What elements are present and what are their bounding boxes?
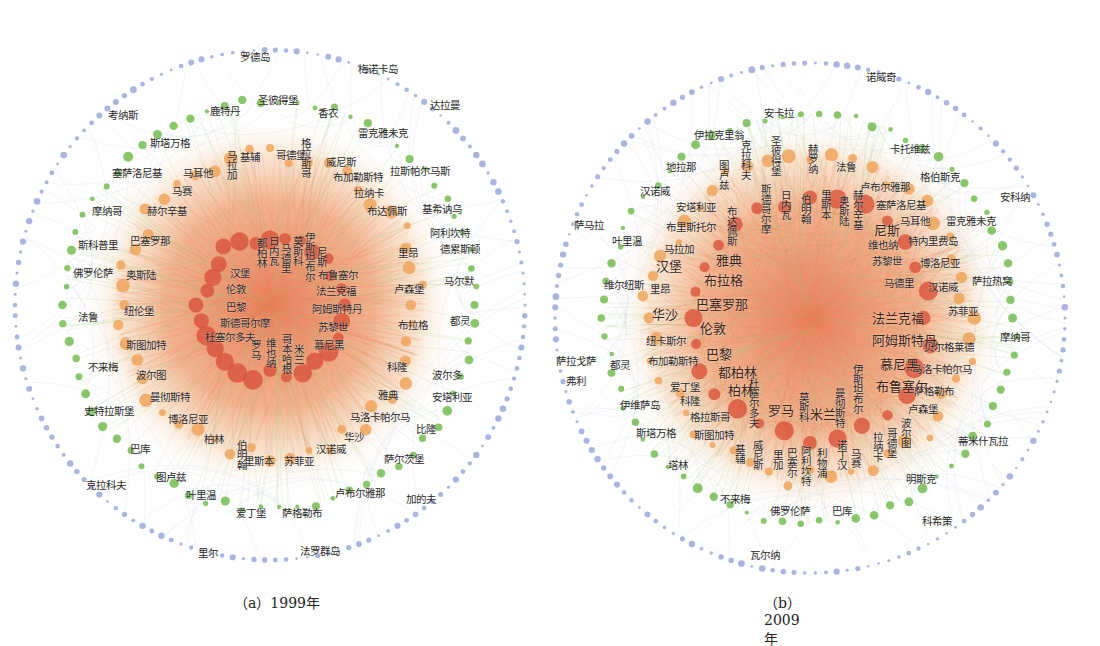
node-label: 马赛 — [850, 448, 861, 468]
node-label: 伯明翰 — [800, 194, 811, 224]
node-label: 卡托维兹 — [890, 144, 930, 155]
node-label: 汉诺威 — [640, 186, 670, 197]
node-label: 利物浦 — [816, 448, 827, 478]
node-label: 法鲁 — [836, 162, 856, 173]
node-label: 威尼斯 — [752, 440, 763, 470]
node-label: 纽卡斯尔 — [646, 336, 686, 347]
node-label: 斯图加特 — [694, 430, 734, 441]
node-label: 弗利 — [566, 376, 586, 387]
node-label: 塞萨洛尼基 — [876, 200, 926, 211]
node-label: 卢森堡 — [908, 404, 938, 415]
node-label: 布达佩斯 — [726, 206, 737, 246]
node-label: 都柏林 — [718, 366, 757, 379]
node-label: 里斯本 — [820, 190, 831, 220]
node-label: 安塔利亚 — [676, 202, 716, 213]
node-label: 科希策 — [922, 516, 952, 527]
node-label: 瓦尔纳 — [750, 550, 780, 561]
node-label: 巴黎 — [706, 348, 732, 361]
node-label: 基辅 — [734, 444, 745, 464]
node-label: 哥德堡 — [886, 428, 897, 458]
node-label: 布鲁塞尔 — [876, 380, 928, 393]
node-label: 赫罗纳 — [807, 144, 818, 174]
node-label: 波尔图 — [900, 418, 911, 448]
node-label: 法兰克福 — [872, 312, 924, 325]
node-label: 苏菲亚 — [948, 306, 978, 317]
node-label: 雷克雅未克 — [946, 216, 996, 227]
node-label: 米兰 — [810, 408, 836, 421]
node-label: 伦敦 — [700, 322, 726, 335]
node-label: 地拉那 — [666, 162, 696, 173]
node-label: 科隆 — [680, 396, 700, 407]
node-label: 慕尼黑 — [880, 358, 919, 371]
node-label: 克拉科夫 — [740, 140, 751, 180]
node-label: 安科纳 — [1000, 192, 1030, 203]
node-label: 柏林 — [728, 384, 754, 397]
node-label: 莫斯科 — [798, 392, 809, 422]
node-label: 蒂米什瓦拉 — [958, 436, 1008, 447]
node-label: 雅典 — [716, 254, 742, 267]
node-label: 赫尔辛基 — [852, 190, 863, 230]
node-label: 卢布尔雅那 — [860, 182, 910, 193]
node-label: 日内瓦 — [780, 190, 791, 220]
node-label: 摩纳哥 — [1000, 332, 1030, 343]
node-label: 都灵 — [610, 360, 630, 371]
node-label: 博洛尼亚 — [920, 258, 960, 269]
node-label: 诺威奇 — [866, 72, 896, 83]
node-label: 马洛卡帕尔马 — [912, 364, 972, 375]
node-label: 马拉加 — [664, 244, 694, 255]
node-label: 格伯斯克 — [920, 172, 960, 183]
node-label: 奥斯陆 — [838, 196, 849, 226]
node-label: 萨拉戈萨 — [556, 356, 596, 367]
node-label: 图卢兹 — [718, 160, 729, 190]
node-label: 苏黎世 — [872, 256, 902, 267]
node-label: 阿利坎特 — [800, 446, 811, 486]
network-graph-2009 — [0, 0, 1100, 646]
node-label: 佛罗伦萨 — [770, 506, 810, 517]
caption-2009: （b）2009年 — [764, 592, 801, 646]
node-label: 马耳他 — [900, 216, 930, 227]
node-label: 伊拉克里翁 — [694, 130, 744, 141]
node-label: 萨拉热窝 — [972, 276, 1012, 287]
node-label: 伊维萨岛 — [620, 400, 660, 411]
node-label: 汉诺威 — [928, 282, 958, 293]
node-label: 巴塞罗那 — [696, 298, 748, 311]
node-label: 拉纳卡 — [872, 432, 883, 462]
node-label: 罗马 — [768, 404, 794, 417]
node-label: 里加 — [772, 450, 783, 470]
node-label: 伊斯坦布尔 — [852, 364, 863, 414]
node-label: 斯德哥尔摩 — [760, 184, 771, 234]
node-label: 布拉格 — [704, 274, 743, 287]
node-label: 华沙 — [652, 308, 678, 321]
node-label: 里昂 — [650, 284, 670, 295]
node-label: 马德里 — [884, 278, 914, 289]
node-label: 维尔纽斯 — [604, 280, 644, 291]
node-label: 巴库 — [832, 506, 852, 517]
node-label: 圣彼得堡 — [770, 136, 781, 176]
node-label: 爱丁堡 — [670, 382, 700, 393]
node-label: 特内里费岛 — [908, 236, 958, 247]
node-label: 格拉斯哥 — [690, 412, 730, 423]
node-label: 斯塔万格 — [636, 428, 676, 439]
network-panel-2009: 诺威奇安卡拉伊拉克里翁卡托维兹地拉那法鲁卢布尔雅那格伯斯克汉诺威安科纳塞萨洛尼基… — [0, 0, 550, 646]
node-label: 明斯克 — [906, 474, 936, 485]
node-label: 安卡拉 — [764, 108, 794, 119]
node-label: 布里斯托尔 — [666, 222, 716, 233]
node-label: 萨马拉 — [574, 220, 604, 231]
node-label: 汉堡 — [656, 260, 682, 273]
node-label: 巴塞尔 — [786, 448, 797, 478]
node-label: 阿姆斯特丹 — [872, 334, 937, 347]
node-label: 诺丁汉 — [836, 440, 847, 470]
node-label: 叶里温 — [612, 236, 642, 247]
node-label: 尼斯 — [874, 224, 900, 237]
node-label: 不来梅 — [720, 494, 750, 505]
node-label: 塔林 — [668, 460, 688, 471]
node-label: 维也纳 — [868, 240, 898, 251]
node-label: 布加勒斯特 — [648, 356, 698, 367]
